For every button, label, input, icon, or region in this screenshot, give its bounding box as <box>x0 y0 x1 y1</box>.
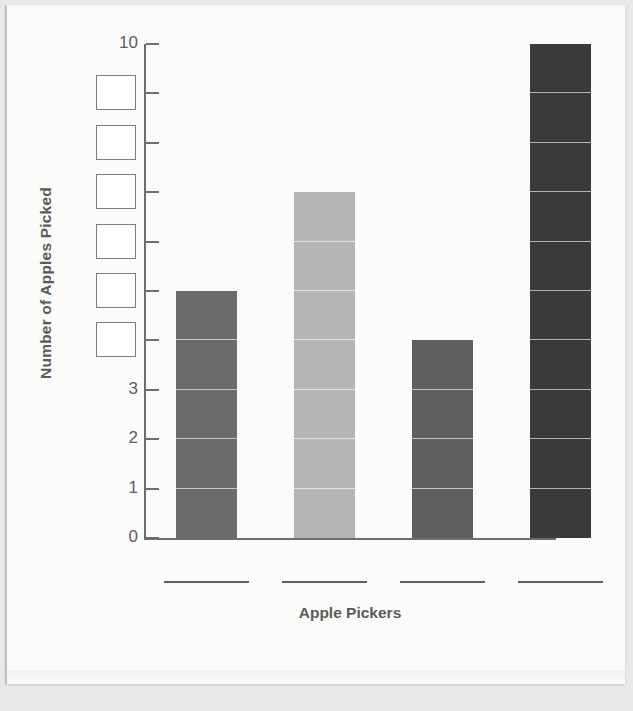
bar <box>412 340 473 538</box>
bar <box>294 192 355 538</box>
bar-unit-segment <box>294 241 355 291</box>
x-axis-answer-line[interactable] <box>400 581 485 583</box>
bar-chart: Number of Apples Picked 103210 Apple Pic… <box>7 6 625 684</box>
y-axis-answer-box[interactable] <box>96 224 136 259</box>
y-axis-tick-label: 2 <box>99 428 138 448</box>
bar-unit-segment <box>176 488 237 538</box>
bar <box>176 291 237 538</box>
bar <box>530 44 591 538</box>
bar-unit-segment <box>530 290 591 340</box>
bar-unit-segment <box>530 389 591 439</box>
bar-unit-segment <box>294 339 355 389</box>
bar-unit-segment <box>412 340 473 389</box>
bar-unit-segment <box>294 290 355 340</box>
y-axis-answer-box[interactable] <box>96 322 136 357</box>
worksheet-page: Number of Apples Picked 103210 Apple Pic… <box>5 5 625 684</box>
bar-unit-segment <box>176 339 237 389</box>
x-axis-answer-line[interactable] <box>164 581 249 583</box>
bar-unit-segment <box>294 488 355 538</box>
y-axis-tick-label: 3 <box>99 379 138 399</box>
bar-unit-segment <box>176 389 237 439</box>
bar-unit-segment <box>412 488 473 538</box>
bar-unit-segment <box>176 438 237 488</box>
y-axis-answer-box[interactable] <box>96 125 136 160</box>
bar-unit-segment <box>530 241 591 291</box>
bar-unit-segment <box>412 389 473 439</box>
bar-series <box>144 44 556 538</box>
y-axis-title: Number of Apples Picked <box>37 158 55 408</box>
y-axis-tick-label: 1 <box>99 478 138 498</box>
bar-unit-segment <box>530 438 591 488</box>
y-axis-answer-box[interactable] <box>96 75 136 110</box>
bar-unit-segment <box>530 44 591 93</box>
bar-unit-segment <box>530 191 591 241</box>
bar-unit-segment <box>530 92 591 142</box>
x-axis-answer-line[interactable] <box>282 581 367 583</box>
y-axis-answer-box[interactable] <box>96 273 136 308</box>
bar-unit-segment <box>530 339 591 389</box>
y-axis-answer-box[interactable] <box>96 174 136 209</box>
y-axis-tick-label: 10 <box>86 33 138 53</box>
bar-unit-segment <box>530 142 591 192</box>
bar-unit-segment <box>530 488 591 538</box>
bar-unit-segment <box>294 192 355 241</box>
bar-unit-segment <box>412 438 473 488</box>
bar-unit-segment <box>294 389 355 439</box>
bar-unit-segment <box>294 438 355 488</box>
y-axis-tick-label: 0 <box>99 527 138 547</box>
x-axis-title: Apple Pickers <box>144 604 556 622</box>
bar-unit-segment <box>176 291 237 340</box>
x-axis-answer-line[interactable] <box>518 581 603 583</box>
x-axis-line <box>144 538 556 540</box>
